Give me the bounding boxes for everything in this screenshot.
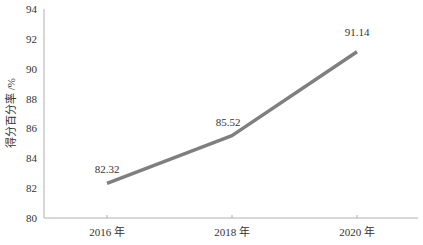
data-label: 82.32: [95, 163, 120, 175]
y-tick-label: 82: [26, 182, 37, 194]
x-tick-label: 2018 年: [214, 225, 250, 238]
line-chart: 8082848688909294 2016 年2018 年2020 年 82.3…: [0, 0, 423, 245]
y-tick-label: 84: [26, 152, 38, 164]
x-tick-label: 2016 年: [89, 225, 125, 238]
data-label: 85.52: [216, 116, 241, 128]
y-tick-label: 86: [26, 122, 38, 134]
y-tick-label: 90: [26, 63, 38, 75]
x-tick-label: 2020 年: [339, 225, 375, 238]
y-tick-label: 92: [26, 33, 37, 45]
y-axis-ticks: 8082848688909294: [26, 3, 38, 224]
y-tick-label: 88: [26, 93, 38, 105]
data-label: 91.14: [345, 26, 370, 38]
data-labels: 82.3285.5291.14: [95, 26, 370, 176]
y-tick-label: 80: [26, 212, 38, 224]
y-axis-title: 得分百分率 /%: [4, 78, 17, 148]
y-tick-label: 94: [26, 3, 38, 15]
